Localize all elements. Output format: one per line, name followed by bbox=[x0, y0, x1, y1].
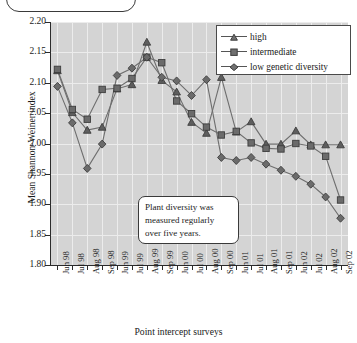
diamond-data-marker bbox=[247, 153, 255, 161]
square-data-marker bbox=[322, 153, 328, 159]
square-data-marker bbox=[233, 128, 239, 134]
chart-legend: high intermediate low genetic diversity bbox=[216, 25, 351, 75]
square-data-marker bbox=[293, 140, 299, 146]
triangle-data-marker bbox=[143, 38, 151, 45]
square-data-marker bbox=[69, 106, 75, 112]
legend-item-low-genetic-diversity[interactable]: low genetic diversity bbox=[221, 59, 346, 74]
diamond-data-marker bbox=[69, 119, 77, 127]
square-data-marker bbox=[203, 124, 209, 130]
square-data-marker bbox=[278, 146, 284, 152]
diamond-data-marker bbox=[292, 172, 300, 180]
diamond-data-marker bbox=[128, 64, 136, 72]
diamond-data-marker bbox=[262, 160, 270, 168]
legend-label-intermediate: intermediate bbox=[250, 47, 296, 57]
annotation-line-3: over five years. bbox=[145, 227, 232, 240]
diamond-data-marker bbox=[277, 166, 285, 174]
square-data-marker bbox=[129, 75, 135, 81]
square-data-marker bbox=[159, 60, 165, 66]
square-data-marker bbox=[188, 111, 194, 117]
chart-figure: 2.202.152.102.052.001.951.901.851.80 Jun… bbox=[0, 0, 357, 343]
chart-annotation: Plant diversity was measured regularly o… bbox=[138, 196, 239, 244]
annotation-line-2: measured regularly bbox=[145, 214, 232, 227]
triangle-data-marker bbox=[173, 88, 181, 95]
square-data-marker bbox=[248, 140, 254, 146]
triangle-marker-icon bbox=[221, 31, 247, 43]
diamond-data-marker bbox=[113, 71, 121, 79]
triangle-data-marker bbox=[98, 123, 106, 130]
triangle-data-marker bbox=[247, 118, 255, 125]
diamond-data-marker bbox=[83, 164, 91, 172]
series-line bbox=[57, 57, 340, 218]
square-data-marker bbox=[54, 66, 60, 72]
diamond-data-marker bbox=[232, 157, 240, 165]
legend-label-low-genetic-diversity: low genetic diversity bbox=[250, 62, 328, 72]
square-data-marker bbox=[84, 116, 90, 122]
legend-item-intermediate[interactable]: intermediate bbox=[221, 44, 346, 59]
legend-item-high[interactable]: high bbox=[221, 29, 346, 44]
diamond-data-marker bbox=[54, 82, 62, 90]
diamond-data-marker bbox=[98, 140, 106, 148]
square-data-marker bbox=[337, 197, 343, 203]
square-data-marker bbox=[114, 85, 120, 91]
square-marker-icon bbox=[221, 46, 247, 58]
square-data-marker bbox=[263, 145, 269, 151]
diamond-data-marker bbox=[218, 153, 226, 161]
legend-label-high: high bbox=[250, 32, 267, 42]
annotation-line-1: Plant diversity was bbox=[145, 201, 232, 214]
square-data-marker bbox=[308, 143, 314, 149]
diamond-data-marker bbox=[337, 214, 345, 222]
square-data-marker bbox=[99, 86, 105, 92]
triangle-data-marker bbox=[292, 127, 300, 134]
square-data-marker bbox=[173, 98, 179, 104]
diamond-marker-icon bbox=[221, 61, 247, 73]
square-data-marker bbox=[218, 132, 224, 138]
triangle-data-marker bbox=[188, 118, 196, 125]
